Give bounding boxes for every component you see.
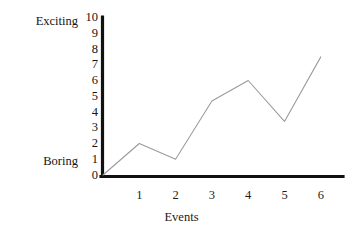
- line-chart-figure: Line chart showing excitement level acro…: [0, 0, 363, 242]
- data-series-line: [103, 57, 321, 175]
- x-axis-title: Events: [0, 210, 363, 224]
- plot-area: [0, 0, 363, 242]
